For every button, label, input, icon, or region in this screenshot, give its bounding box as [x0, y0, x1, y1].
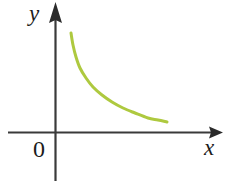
origin-label: 0 [33, 137, 45, 161]
x-axis-label: x [204, 136, 214, 159]
decreasing-curve [71, 33, 167, 122]
y-axis-arrowhead [49, 2, 62, 23]
y-axis-label: y [29, 2, 39, 25]
graph-figure: y x 0 [0, 0, 229, 181]
